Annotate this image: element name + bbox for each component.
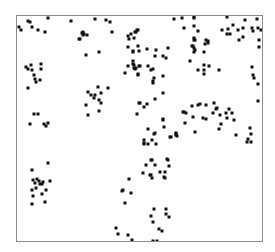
data-point [153, 208, 156, 211]
data-point [203, 64, 206, 67]
data-point [42, 181, 45, 184]
data-point [127, 234, 130, 237]
data-point [258, 46, 261, 49]
data-point [146, 48, 149, 51]
data-point [204, 43, 207, 46]
data-point [226, 16, 229, 19]
data-point [34, 182, 37, 185]
data-point [194, 131, 197, 134]
data-point [176, 135, 179, 138]
data-point [147, 143, 150, 146]
data-point [154, 55, 157, 58]
data-point [127, 46, 130, 49]
data-point [41, 193, 44, 196]
data-point [146, 103, 149, 106]
data-point [192, 45, 195, 48]
data-point [161, 230, 164, 233]
data-point [32, 179, 35, 182]
data-point [139, 102, 142, 105]
data-point [227, 28, 230, 31]
data-point [138, 50, 141, 53]
data-point [137, 45, 140, 48]
data-point [150, 174, 153, 177]
data-point [85, 54, 88, 57]
data-point [139, 65, 142, 68]
data-point [213, 102, 216, 105]
data-point [38, 180, 41, 183]
data-point [163, 126, 166, 129]
data-point [47, 17, 50, 20]
data-point [205, 104, 208, 107]
data-point [152, 68, 155, 71]
data-point [132, 50, 135, 53]
data-point [34, 78, 37, 81]
data-point [233, 119, 236, 122]
data-point [105, 19, 108, 22]
data-point [165, 208, 168, 211]
data-point [147, 65, 150, 68]
data-point [143, 143, 146, 146]
data-point [218, 128, 221, 131]
data-point [32, 195, 35, 198]
data-point [163, 176, 166, 179]
data-point [130, 192, 133, 195]
scatter-points [17, 16, 262, 241]
data-point [35, 187, 38, 190]
data-point [94, 18, 97, 21]
data-point [107, 87, 110, 90]
data-point [153, 77, 156, 80]
data-point [35, 81, 38, 84]
data-point [20, 29, 23, 32]
data-point [93, 97, 96, 100]
data-point [183, 111, 186, 114]
data-point [143, 139, 146, 142]
data-point [152, 240, 155, 242]
data-point [167, 159, 170, 162]
data-point [164, 171, 167, 174]
data-point [242, 36, 245, 39]
data-point [133, 67, 136, 70]
data-point [30, 64, 33, 67]
data-point [133, 37, 136, 40]
data-point [229, 33, 232, 36]
data-point [98, 110, 101, 113]
data-point [258, 39, 261, 42]
data-point [162, 119, 165, 122]
data-point [150, 215, 153, 218]
data-point [27, 68, 30, 71]
data-point [207, 42, 210, 45]
data-point [132, 63, 135, 66]
data-point [117, 233, 120, 236]
data-point [252, 74, 255, 77]
scatter-plot-area [16, 15, 263, 242]
data-point [145, 164, 148, 167]
data-point [29, 123, 32, 126]
data-point [29, 21, 32, 24]
data-point [228, 108, 231, 111]
data-point [192, 116, 195, 119]
data-point [221, 29, 224, 32]
data-point [155, 143, 158, 146]
data-point [226, 33, 229, 36]
data-point [37, 29, 40, 32]
data-point [247, 138, 250, 141]
data-point [162, 55, 165, 58]
data-point [33, 74, 36, 77]
data-point [124, 202, 127, 205]
data-point [94, 94, 97, 97]
data-point [18, 26, 21, 29]
data-point [193, 25, 196, 28]
data-point [251, 27, 254, 30]
data-point [184, 122, 187, 125]
data-point [225, 112, 228, 115]
data-point [31, 26, 34, 29]
data-point [121, 190, 124, 193]
data-point [155, 49, 158, 52]
data-point [231, 112, 234, 115]
data-point [197, 30, 200, 33]
data-point [173, 18, 176, 21]
data-point [127, 65, 130, 68]
data-point [181, 17, 184, 20]
data-point [98, 51, 101, 54]
data-point [127, 35, 130, 38]
